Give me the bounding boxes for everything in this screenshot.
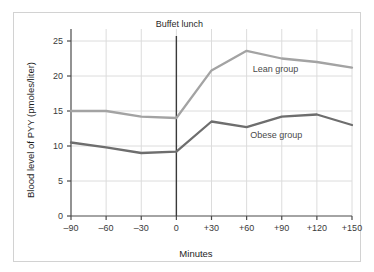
x-tick-label-150: +150 xyxy=(342,223,362,233)
series-label-lean-group: Lean group xyxy=(253,64,299,74)
y-axis-tick-labels: 0510152025 xyxy=(53,36,63,221)
x-axis-title: Minutes xyxy=(179,248,213,259)
y-tick-label-15: 15 xyxy=(53,106,63,116)
chart-figure: 0510152025 –90–60–300+30+60+90+120+150 B… xyxy=(0,0,374,272)
x-tick-label-120: +120 xyxy=(307,223,327,233)
y-axis-title: Blood level of PYY (pmoles/liter) xyxy=(25,62,36,198)
buffet-lunch-label: Buffet lunch xyxy=(156,19,203,29)
x-tick-label--60: –60 xyxy=(99,223,114,233)
series-inline-labels: Lean groupObese group xyxy=(250,64,302,140)
x-tick-label-90: +90 xyxy=(274,223,289,233)
y-tick-label-20: 20 xyxy=(53,71,63,81)
x-axis-tick-labels: –90–60–300+30+60+90+120+150 xyxy=(63,223,362,233)
series-label-obese-group: Obese group xyxy=(250,130,302,140)
y-tick-label-25: 25 xyxy=(53,36,63,46)
y-tick-label-5: 5 xyxy=(58,176,63,186)
line-chart: 0510152025 –90–60–300+30+60+90+120+150 B… xyxy=(0,0,374,272)
x-tick-label--90: –90 xyxy=(63,223,78,233)
axis-tick-marks xyxy=(67,41,352,220)
vertical-gridlines xyxy=(106,29,352,216)
y-tick-label-10: 10 xyxy=(53,141,63,151)
x-tick-label-60: +60 xyxy=(239,223,254,233)
x-tick-label-0: 0 xyxy=(174,223,179,233)
y-tick-label-0: 0 xyxy=(58,211,63,221)
x-tick-label-30: +30 xyxy=(204,223,219,233)
x-tick-label--30: –30 xyxy=(134,223,149,233)
